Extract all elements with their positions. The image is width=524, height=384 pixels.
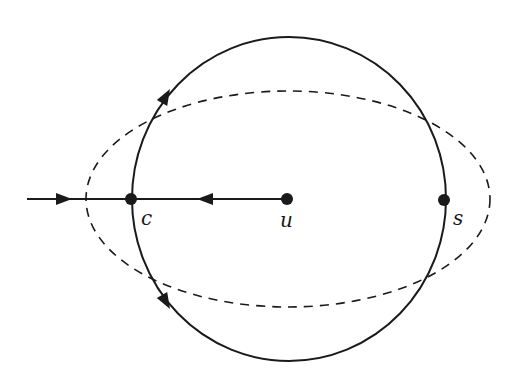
label-u: u — [280, 208, 293, 232]
label-s: s — [453, 206, 463, 230]
node-u — [281, 193, 293, 205]
arrow-left-icon — [197, 193, 213, 205]
arrow-right-icon — [56, 193, 72, 205]
orbit-diagram: c u s — [0, 0, 524, 384]
label-c: c — [141, 206, 152, 230]
node-s — [438, 194, 450, 206]
node-c — [125, 193, 137, 205]
